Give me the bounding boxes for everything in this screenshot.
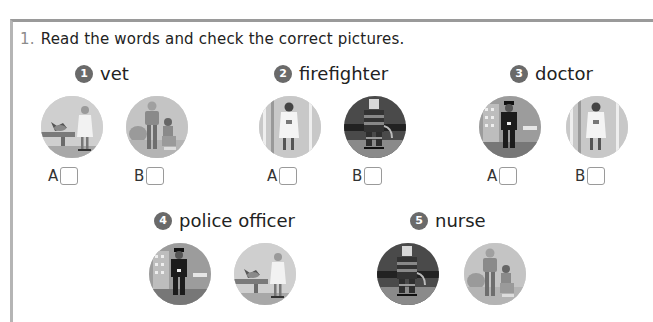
checkbox[interactable] [499, 167, 517, 185]
number-badge: 5 [410, 212, 428, 230]
instruction-text: Read the words and check the correct pic… [41, 30, 405, 48]
option-b[interactable]: B [575, 167, 605, 185]
number-badge: 4 [154, 212, 172, 230]
option-letter: A [267, 167, 277, 185]
picture-nurse [126, 96, 188, 158]
option-a[interactable]: A [267, 167, 297, 185]
item-word: vet [100, 63, 129, 84]
item-label: 1 vet [75, 63, 129, 84]
item-word: doctor [535, 63, 593, 84]
picture-police-officer [149, 243, 211, 305]
picture-vet [234, 243, 296, 305]
option-b[interactable]: B [352, 167, 382, 185]
exercise-number: 1. [20, 30, 35, 48]
picture-police-officer [479, 96, 541, 158]
picture-nurse [464, 243, 526, 305]
option-letter: B [134, 167, 144, 185]
checkbox[interactable] [146, 167, 164, 185]
picture-firefighter [344, 96, 406, 158]
picture-firefighter [377, 243, 439, 305]
item-word: firefighter [299, 63, 388, 84]
item-label: 4 police officer [154, 210, 295, 231]
checkbox[interactable] [587, 167, 605, 185]
picture-doctor [566, 96, 628, 158]
number-badge: 2 [274, 65, 292, 83]
item-label: 3 doctor [510, 63, 593, 84]
item-word: nurse [435, 210, 486, 231]
option-b[interactable]: B [134, 167, 164, 185]
option-letter: A [487, 167, 497, 185]
option-a[interactable]: A [487, 167, 517, 185]
checkbox[interactable] [364, 167, 382, 185]
item-label: 2 firefighter [274, 63, 388, 84]
picture-vet [41, 96, 103, 158]
picture-doctor [259, 96, 321, 158]
exercise-instruction: 1.Read the words and check the correct p… [20, 30, 405, 48]
option-letter: B [352, 167, 362, 185]
option-letter: B [575, 167, 585, 185]
number-badge: 1 [75, 65, 93, 83]
item-label: 5 nurse [410, 210, 486, 231]
checkbox[interactable] [279, 167, 297, 185]
checkbox[interactable] [60, 167, 78, 185]
option-letter: A [48, 167, 58, 185]
number-badge: 3 [510, 65, 528, 83]
item-word: police officer [179, 210, 295, 231]
option-a[interactable]: A [48, 167, 78, 185]
